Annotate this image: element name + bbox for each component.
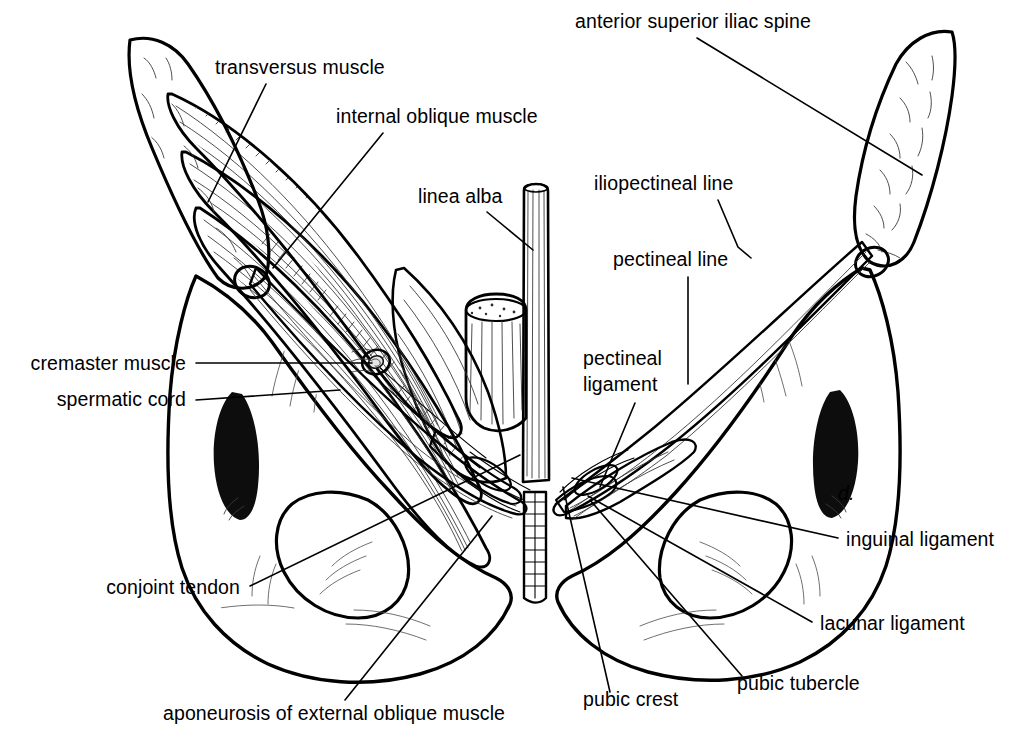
label-line: ligament [583,373,658,395]
label-pubic-tubercle: pubic tubercle [737,672,860,694]
inguinal-region-diagram: d. anterior superior iliac spinetransver… [0,0,1020,738]
label-spermatic-cord: spermatic cord [57,388,186,410]
label-internal-oblique-muscle: internal oblique muscle [336,105,538,127]
label-anterior-superior-iliac-spine: anterior superior iliac spine [575,10,811,32]
label-inguinal-ligament: inguinal ligament [846,528,995,550]
label-cremaster-muscle: cremaster muscle [31,352,186,374]
label-lacunar-ligament: lacunar ligament [820,612,965,634]
label-transversus-muscle: transversus muscle [215,56,385,78]
label-pubic-crest: pubic crest [583,688,679,710]
label-aponeurosis-of-external-oblique-muscle: aponeurosis of external oblique muscle [163,702,505,724]
label-pectineal-line: pectineal line [613,248,728,270]
label-linea-alba: linea alba [418,185,503,207]
label-line: pectineal [583,347,662,369]
label-iliopectineal-line: iliopectineal line [594,172,733,194]
artist-mark: d. [838,482,854,504]
label-conjoint-tendon: conjoint tendon [106,576,240,598]
